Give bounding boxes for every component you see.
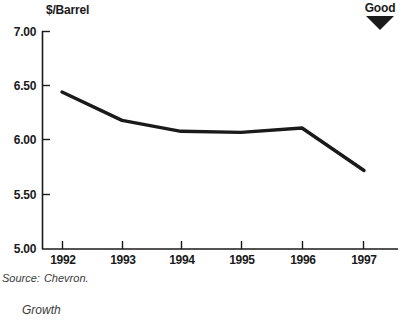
- y-tick-label: 6.00: [0, 134, 36, 146]
- y-tick-label: 5.50: [0, 189, 36, 201]
- caption-growth: Growth: [22, 303, 61, 317]
- source-note: Source:Chevron.: [2, 272, 89, 284]
- y-tick-label: 7.00: [0, 26, 36, 38]
- x-tick-label: 1996: [279, 254, 327, 267]
- x-tick-label: 1997: [340, 254, 388, 267]
- x-tick-label: 1993: [99, 254, 147, 267]
- x-tick-label: 1992: [39, 254, 87, 267]
- x-tick-marks: [63, 241, 364, 249]
- x-tick-label: 1994: [158, 254, 206, 267]
- y-tick-label: 5.00: [0, 243, 36, 255]
- y-tick-label: 6.50: [0, 80, 36, 92]
- chart-container: $/Barrel Good 7.00 6.50 6.00: [0, 0, 409, 321]
- source-label: Source:: [2, 272, 40, 284]
- x-tick-label: 1995: [218, 254, 266, 267]
- source-value: Chevron.: [44, 272, 89, 284]
- data-series-line: [62, 92, 364, 171]
